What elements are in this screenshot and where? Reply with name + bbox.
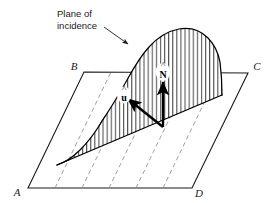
vertex-label-C: C (253, 60, 261, 72)
vertex-label-A: A (13, 186, 21, 198)
callout-line-2: incidence (57, 20, 97, 31)
figure-root: ^ N ^ u Plane of incidence A B C D (0, 0, 271, 203)
callout-plane-of-incidence: Plane of incidence (57, 8, 128, 44)
vertex-label-D: D (194, 187, 203, 199)
propagation-vector-label: u (121, 92, 127, 103)
callout-arrow (104, 27, 128, 44)
vertex-label-B: B (71, 60, 78, 72)
callout-line-1: Plane of (57, 8, 92, 19)
normal-vector-label: N (159, 69, 167, 80)
plane-of-incidence-diagram: ^ N ^ u Plane of incidence A B C D (0, 0, 271, 203)
